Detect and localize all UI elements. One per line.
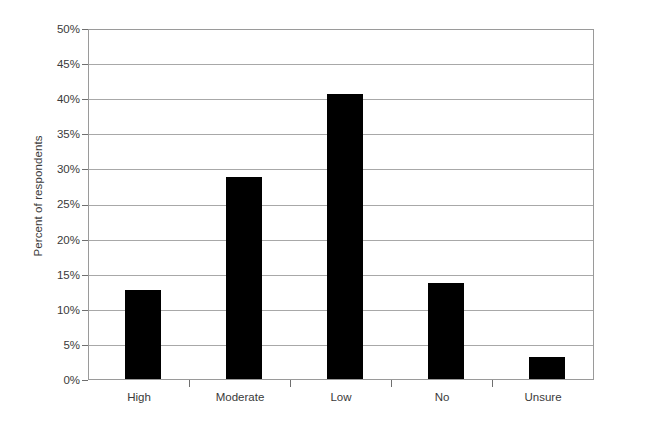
x-category-label-moderate: Moderate	[190, 391, 290, 403]
y-tick-label-10: 10%	[34, 304, 80, 316]
x-category-label-high: High	[89, 391, 189, 403]
bar-moderate	[226, 177, 262, 379]
x-tick-mark-2	[290, 380, 291, 387]
bar-no	[428, 283, 464, 379]
y-tick-mark-0	[82, 380, 88, 381]
y-tick-label-20: 20%	[34, 234, 80, 246]
y-axis-tick-labels: 50% 45% 40% 35% 30% 25% 20% 15% 10% 5% 0…	[0, 0, 84, 428]
bar-low	[327, 94, 363, 379]
x-category-label-no: No	[392, 391, 492, 403]
bar-high	[125, 290, 161, 379]
y-tick-label-15: 15%	[34, 269, 80, 281]
x-tick-mark-3	[391, 380, 392, 387]
x-category-label-unsure: Unsure	[493, 391, 593, 403]
bar-unsure	[529, 357, 565, 379]
x-tick-mark-4	[492, 380, 493, 387]
y-tick-label-50: 50%	[34, 23, 80, 35]
y-tick-label-40: 40%	[34, 93, 80, 105]
y-tick-label-35: 35%	[34, 128, 80, 140]
y-tick-label-0: 0%	[34, 374, 80, 386]
y-tick-label-5: 5%	[34, 339, 80, 351]
y-tick-label-30: 30%	[34, 163, 80, 175]
y-tick-label-25: 25%	[34, 198, 80, 210]
plot-area	[88, 29, 594, 380]
gridline-45	[89, 64, 593, 65]
x-category-label-low: Low	[291, 391, 391, 403]
x-tick-mark-1	[189, 380, 190, 387]
y-tick-label-45: 45%	[34, 58, 80, 70]
bar-chart: Percent of respondents 50% 45% 40% 35% 3…	[0, 0, 647, 428]
